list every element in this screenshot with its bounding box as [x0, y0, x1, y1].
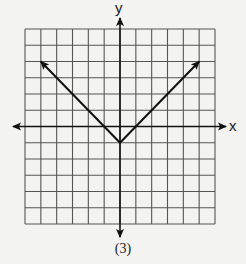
- y-axis-label: y: [115, 0, 123, 16]
- axes: [13, 18, 226, 237]
- figure-caption: (3): [0, 241, 246, 257]
- x-axis-label: x: [229, 117, 237, 134]
- coordinate-plane: x y: [0, 0, 246, 264]
